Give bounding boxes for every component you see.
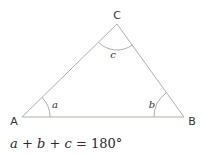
eq-equals: = bbox=[76, 136, 87, 151]
triangle-diagram: C A B a b c bbox=[0, 0, 203, 156]
vertex-label-a: A bbox=[10, 115, 18, 128]
eq-term-b: b bbox=[37, 136, 45, 151]
angle-sum-equation: a + b + c = 180° bbox=[10, 136, 122, 151]
angle-arc-a bbox=[42, 97, 50, 117]
side-ac bbox=[22, 24, 117, 117]
eq-term-c: c bbox=[64, 136, 71, 151]
eq-plus-2: + bbox=[49, 136, 60, 151]
vertex-label-b: B bbox=[188, 115, 196, 128]
angle-arc-b bbox=[154, 93, 166, 117]
eq-total: 180° bbox=[91, 136, 122, 151]
angle-label-a: a bbox=[52, 99, 58, 110]
angle-label-b: b bbox=[149, 99, 155, 110]
vertex-label-c: C bbox=[113, 9, 121, 22]
eq-plus-1: + bbox=[22, 136, 33, 151]
angle-label-c: c bbox=[110, 49, 116, 60]
eq-term-a: a bbox=[10, 136, 18, 151]
